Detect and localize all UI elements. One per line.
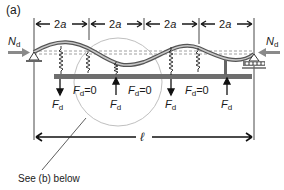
callout-label: See (b) below (18, 173, 80, 184)
force-label-6: Fd=0 (185, 84, 209, 98)
elastic-foundation-base (54, 74, 252, 79)
force-label-5: Fd (165, 98, 176, 112)
force-label-2: Fd=0 (73, 84, 97, 98)
short-spring-right (224, 60, 227, 75)
force-label-3: Fd (110, 98, 121, 112)
spacing-label-3: 2a (164, 18, 176, 30)
force-label-7: Fd (221, 98, 232, 112)
length-dimension (36, 133, 252, 141)
axial-load-label-right: Nd (266, 35, 278, 49)
springs (59, 46, 200, 75)
straight-reference-line (34, 51, 254, 54)
axial-load-arrows (8, 48, 280, 57)
spacing-label-2: 2a (109, 18, 121, 30)
panel-label: (a) (6, 3, 21, 17)
diagram-canvas: (a) 2a 2a 2a 2a (0, 0, 284, 190)
force-label-1: Fd (52, 98, 63, 112)
callout-leader (42, 118, 86, 170)
force-label-4: Fd=0 (128, 84, 152, 98)
roller-support-right (242, 54, 266, 68)
length-label: ℓ (140, 130, 145, 144)
spacing-label-4: 2a (219, 18, 231, 30)
spacing-label-1: 2a (54, 18, 66, 30)
axial-load-label-left: Nd (8, 35, 20, 49)
